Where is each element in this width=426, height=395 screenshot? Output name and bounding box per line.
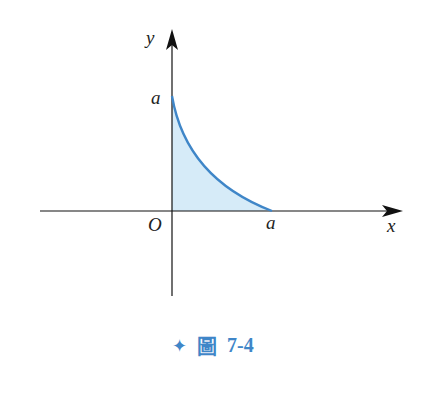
caption-prefix: 圖 [197,331,217,360]
x-axis-label: x [387,216,395,235]
caption-number: 7-4 [227,334,254,357]
figure-caption: ✦ 圖 7-4 [172,331,254,360]
shaded-region [172,96,272,211]
origin-label: O [148,215,162,234]
x-intercept-label: a [266,213,276,232]
figure: y a O a x ✦ 圖 7-4 [0,0,426,395]
y-intercept-label: a [151,88,161,107]
four-point-star-icon: ✦ [172,335,187,357]
y-axis-label: y [146,28,154,47]
